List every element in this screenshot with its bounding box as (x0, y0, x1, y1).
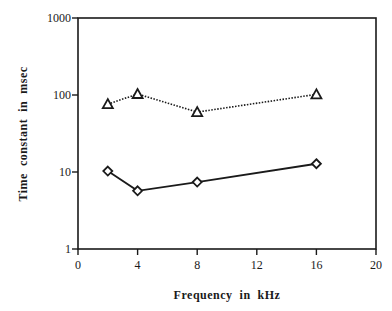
x-tick-label: 12 (251, 258, 263, 272)
y-tick-label: 1 (65, 242, 71, 256)
diamond-marker (193, 178, 202, 187)
diamond-marker (312, 159, 321, 168)
plot-border (78, 18, 376, 249)
y-tick-label: 1000 (47, 11, 71, 25)
x-tick-label: 4 (135, 258, 141, 272)
chart-container: 1101001000 048121620 Frequency in kHz Ti… (0, 0, 392, 311)
y-tick-label: 100 (53, 88, 71, 102)
triangle-marker (103, 99, 113, 108)
triangle-marker (192, 107, 202, 116)
x-tick-label: 8 (194, 258, 200, 272)
x-tick-label: 20 (370, 258, 382, 272)
data-series (103, 89, 322, 195)
x-tick-label: 0 (75, 258, 81, 272)
triangle-marker (311, 89, 321, 98)
triangle-marker (133, 89, 143, 98)
plot-frame (78, 18, 376, 249)
y-tick-label: 10 (59, 165, 71, 179)
y-axis-ticks: 1101001000 (47, 11, 78, 256)
x-axis-ticks: 048121620 (75, 249, 382, 272)
x-axis-title: Frequency in kHz (174, 288, 281, 302)
line-chart: 1101001000 048121620 Frequency in kHz Ti… (0, 0, 392, 311)
y-axis-title: Time constant in msec (16, 66, 30, 201)
x-tick-label: 16 (310, 258, 322, 272)
